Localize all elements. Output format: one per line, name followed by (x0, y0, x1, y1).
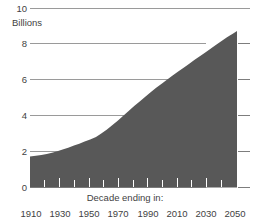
y-tick-label-10: 10 (16, 3, 27, 14)
y-axis-title: Billions (12, 17, 42, 28)
chart-canvas: 10 8 6 4 2 0 Billions Decade ending in: … (0, 0, 255, 223)
x-tick-label-1970: 1970 (107, 208, 128, 219)
x-tick-label-2010: 2010 (166, 208, 187, 219)
x-tick-label-2030: 2030 (195, 208, 216, 219)
right-tick-stubs (238, 44, 250, 188)
y-tick-label-8: 8 (22, 38, 27, 49)
y-tick-label-2: 2 (22, 146, 27, 157)
x-axis-title: Decade ending in: (87, 192, 164, 203)
x-tick-label-1950: 1950 (78, 208, 99, 219)
x-tick-label-1910: 1910 (20, 208, 41, 219)
area-series-world-population (30, 31, 237, 188)
y-tick-label-4: 4 (22, 110, 27, 121)
x-tick-label-1930: 1930 (49, 208, 70, 219)
x-tick-label-1990: 1990 (137, 208, 158, 219)
x-tick-label-2050: 2050 (224, 208, 245, 219)
y-tick-label-6: 6 (22, 74, 27, 85)
y-tick-label-0: 0 (22, 182, 27, 193)
population-area-chart: 10 8 6 4 2 0 Billions Decade ending in: … (0, 0, 255, 223)
